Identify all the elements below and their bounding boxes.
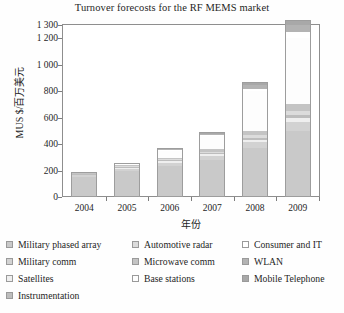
legend-item[interactable]: Instrumentation	[6, 291, 132, 301]
legend-label: Military comm	[18, 257, 76, 267]
legend-label: Mobile Telephone	[254, 274, 324, 284]
bar-segment	[285, 122, 311, 131]
bar-segment	[157, 166, 183, 197]
x-axis-title: 年份	[62, 216, 320, 231]
bar-segment	[285, 38, 311, 104]
y-tick-label: 600	[0, 113, 58, 123]
x-tick-label: 2004	[61, 203, 107, 213]
legend-swatch-icon	[6, 241, 13, 248]
legend-label: Automotive radar	[144, 240, 213, 250]
bar-segment	[157, 151, 183, 158]
y-tick-mark	[58, 197, 62, 198]
bar-segment	[71, 177, 97, 197]
legend-label: WLAN	[254, 257, 283, 267]
legend-label: Microwave comm	[144, 257, 215, 267]
bar-stack[interactable]	[285, 20, 311, 197]
legend-swatch-icon	[6, 258, 13, 265]
x-tick-mark	[276, 197, 277, 201]
legend-label: Consumer and IT	[254, 240, 322, 250]
legend-item[interactable]: Mobile Telephone	[242, 274, 342, 284]
legend-item[interactable]: Automotive radar	[132, 240, 242, 250]
bar-segment	[114, 171, 140, 197]
x-tick-label: 2007	[189, 203, 235, 213]
y-tick-label: 200	[0, 166, 58, 176]
y-tick-label: 400	[0, 139, 58, 149]
x-tick-mark	[191, 197, 192, 201]
legend-swatch-icon	[132, 258, 139, 265]
bar-segment	[242, 91, 268, 131]
bar-segment	[285, 25, 311, 32]
y-tick-label: 1 200	[0, 33, 58, 43]
y-tick-label: 0	[0, 192, 58, 202]
bar-segment	[285, 131, 311, 197]
legend-item[interactable]: Military phased array	[6, 240, 132, 250]
bar-segment	[199, 160, 225, 197]
x-tick-label: 2006	[147, 203, 193, 213]
legend-label: Military phased array	[18, 240, 101, 250]
legend-label: Instrumentation	[18, 291, 79, 301]
chart-figure: Turnover forecosts for the RF MEMS marke…	[0, 0, 344, 313]
bar-segment	[199, 136, 225, 149]
legend-swatch-icon	[132, 275, 139, 282]
legend-label: Satellites	[18, 274, 54, 284]
x-tick-label: 2005	[104, 203, 150, 213]
legend-item[interactable]: Satellites	[6, 274, 132, 284]
legend-item[interactable]: Military comm	[6, 257, 132, 267]
x-tick-mark	[234, 197, 235, 201]
x-tick-label: 2009	[275, 203, 321, 213]
bar-segment	[285, 104, 311, 111]
chart-legend: Military phased arrayAutomotive radarCon…	[6, 236, 342, 304]
bar-stack[interactable]	[199, 132, 225, 197]
bar-segment	[242, 148, 268, 197]
legend-swatch-icon	[132, 241, 139, 248]
legend-swatch-icon	[6, 275, 13, 282]
bar-stack[interactable]	[71, 172, 97, 197]
x-tick-mark	[319, 197, 320, 201]
plot-area	[63, 25, 319, 197]
legend-item[interactable]: Microwave comm	[132, 257, 242, 267]
legend-swatch-icon	[242, 258, 249, 265]
legend-item[interactable]: Consumer and IT	[242, 240, 342, 250]
chart-title: Turnover forecosts for the RF MEMS marke…	[0, 2, 344, 13]
legend-swatch-icon	[242, 241, 249, 248]
legend-item[interactable]: WLAN	[242, 257, 342, 267]
legend-swatch-icon	[6, 292, 13, 299]
legend-swatch-icon	[242, 275, 249, 282]
bar-stack[interactable]	[157, 148, 183, 197]
x-tick-label: 2008	[232, 203, 278, 213]
bar-stack[interactable]	[242, 82, 268, 197]
legend-item[interactable]: Base stations	[132, 274, 242, 284]
y-tick-label: 800	[0, 86, 58, 96]
legend-label: Base stations	[144, 274, 195, 284]
x-tick-mark	[106, 197, 107, 201]
x-tick-mark	[148, 197, 149, 201]
y-tick-label: 1 000	[0, 60, 58, 70]
y-tick-label: 1 300	[0, 20, 58, 30]
bar-stack[interactable]	[114, 163, 140, 197]
